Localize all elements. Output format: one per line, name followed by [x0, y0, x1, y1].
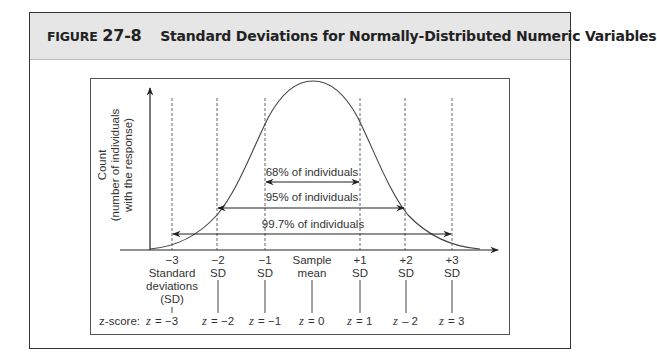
inner-diagram-box — [91, 79, 510, 335]
svg-text:= −3: = −3 — [155, 315, 178, 327]
range-99-7: 99.7% of individuals — [173, 218, 451, 234]
svg-text:z: z — [438, 314, 444, 328]
svg-text:z: z — [392, 314, 398, 328]
svg-text:= 3: = 3 — [448, 315, 464, 327]
svg-text:+3: +3 — [445, 254, 458, 266]
tick-minus-2: −2 SD — [210, 254, 226, 313]
svg-text:z: z — [248, 314, 254, 328]
tick-mean: Sample mean — [293, 254, 332, 313]
svg-text:−3: −3 — [165, 254, 178, 266]
svg-text:with the response): with the response) — [122, 118, 134, 213]
svg-text:+1: +1 — [353, 254, 366, 266]
svg-text:(number of individuals: (number of individuals — [109, 109, 121, 222]
svg-text:SD: SD — [210, 267, 226, 279]
tick-minus-1: −1 SD — [257, 254, 273, 313]
svg-text:z: z — [298, 314, 304, 328]
tick-plus-1: +1 SD — [352, 254, 368, 313]
svg-text:= 1: = 1 — [356, 315, 372, 327]
z-score-label: z-score: — [99, 315, 140, 327]
svg-text:−1: −1 — [258, 254, 271, 266]
z-value: z= −1 — [248, 314, 281, 328]
z-value: z= 3 — [438, 314, 464, 328]
svg-text:Standard: Standard — [149, 267, 196, 279]
svg-text:mean: mean — [298, 267, 327, 279]
svg-text:deviations: deviations — [146, 280, 198, 292]
tick-minus-3: −3 Standard deviations (SD) — [146, 254, 198, 313]
svg-text:SD: SD — [444, 267, 460, 279]
svg-text:SD: SD — [398, 267, 414, 279]
tick-plus-2: +2 SD — [398, 254, 414, 313]
svg-text:= −2: = −2 — [211, 315, 234, 327]
z-score-row: z-score: z= −3 z= −2 z= −1 z= 0 z= 1 z– … — [99, 314, 464, 328]
svg-text:Sample: Sample — [293, 254, 332, 266]
svg-text:= 0: = 0 — [308, 315, 324, 327]
range-label-68: 68% of individuals — [266, 166, 359, 178]
svg-text:Count: Count — [96, 149, 108, 180]
svg-text:(SD): (SD) — [160, 293, 184, 305]
svg-text:= −1: = −1 — [258, 315, 281, 327]
svg-text:+2: +2 — [399, 254, 412, 266]
svg-text:z: z — [201, 314, 207, 328]
range-68: 68% of individuals — [266, 166, 359, 182]
z-value: z= −2 — [201, 314, 234, 328]
y-axis-label: Count (number of individuals with the re… — [96, 109, 134, 222]
range-label-99-7: 99.7% of individuals — [262, 218, 365, 230]
z-value: z= 0 — [298, 314, 324, 328]
z-value: z= −3 — [145, 314, 178, 328]
svg-text:SD: SD — [257, 267, 273, 279]
range-label-95: 95% of individuals — [266, 191, 359, 203]
range-95: 95% of individuals — [218, 191, 404, 208]
svg-text:SD: SD — [352, 267, 368, 279]
svg-text:z: z — [346, 314, 352, 328]
z-value: z= 1 — [346, 314, 372, 328]
svg-text:−2: −2 — [211, 254, 224, 266]
z-value: z– 2 — [392, 314, 418, 328]
svg-text:z: z — [145, 314, 151, 328]
svg-text:– 2: – 2 — [402, 315, 418, 327]
tick-plus-3: +3 SD — [444, 254, 460, 313]
